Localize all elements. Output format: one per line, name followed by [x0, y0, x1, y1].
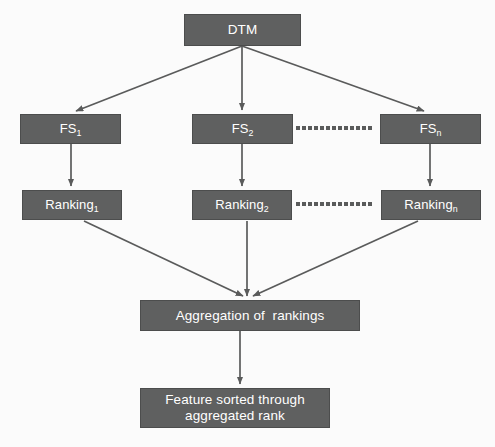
dot — [338, 202, 342, 206]
node-ranking2: Ranking2 — [192, 190, 292, 220]
node-output: Feature sorted throughaggregated rank — [140, 388, 330, 428]
flowchart-diagram: DTM FS1 FS2 FSn Ranking1 Ranking2 Rankin… — [0, 0, 495, 447]
node-aggregation: Aggregation of rankings — [140, 300, 360, 331]
dot — [338, 126, 342, 130]
edge-rankingn-to-aggregation — [253, 221, 418, 296]
dot — [296, 126, 300, 130]
dot — [308, 126, 312, 130]
node-fs2-label: FS2 — [232, 121, 254, 136]
node-output-label: Feature sorted throughaggregated rank — [165, 392, 305, 424]
dot — [350, 202, 354, 206]
node-aggregation-label: Aggregation of rankings — [176, 308, 325, 324]
node-fs2-base: FS — [232, 121, 249, 136]
dot — [302, 202, 306, 206]
node-fs1-base: FS — [60, 121, 77, 136]
node-fsn-base: FS — [420, 121, 437, 136]
dot — [356, 126, 360, 130]
node-rankingn-base: Ranking — [404, 197, 452, 212]
ellipsis-fs-row — [296, 126, 372, 130]
dot — [332, 202, 336, 206]
node-rankingn-subscript: n — [453, 204, 458, 214]
edge-dtm-to-fs1 — [76, 46, 242, 111]
dot — [302, 126, 306, 130]
node-fs2: FS2 — [192, 114, 293, 144]
node-fsn: FSn — [380, 114, 481, 144]
dot — [368, 202, 372, 206]
edge-ranking1-to-aggregation — [84, 221, 243, 296]
dot — [320, 126, 324, 130]
node-fs1-label: FS1 — [60, 121, 82, 136]
node-rankingn-label: Rankingn — [404, 197, 457, 212]
node-fsn-subscript: n — [436, 128, 441, 138]
node-output-line1: Feature sorted through — [165, 392, 305, 408]
dot — [332, 126, 336, 130]
dot — [326, 126, 330, 130]
dot — [320, 202, 324, 206]
diagram-edges-layer — [0, 0, 495, 447]
node-ranking2-subscript: 2 — [264, 204, 269, 214]
dot — [314, 202, 318, 206]
dot — [350, 126, 354, 130]
node-fs2-subscript: 2 — [248, 128, 253, 138]
node-ranking1-label: Ranking1 — [45, 197, 98, 212]
node-output-line2: aggregated rank — [165, 408, 305, 424]
node-fs1-subscript: 1 — [76, 128, 81, 138]
node-ranking1-base: Ranking — [45, 197, 93, 212]
dot — [344, 202, 348, 206]
dot — [326, 202, 330, 206]
dot — [314, 126, 318, 130]
node-rankingn: Rankingn — [381, 190, 481, 220]
dot — [362, 202, 366, 206]
node-ranking1-subscript: 1 — [94, 204, 99, 214]
dot — [296, 202, 300, 206]
dot — [356, 202, 360, 206]
dot — [308, 202, 312, 206]
dot — [368, 126, 372, 130]
node-fs1: FS1 — [20, 114, 121, 144]
node-ranking2-base: Ranking — [215, 197, 263, 212]
dot — [344, 126, 348, 130]
node-ranking1: Ranking1 — [22, 190, 122, 220]
node-dtm: DTM — [184, 14, 301, 46]
node-fsn-label: FSn — [420, 121, 442, 136]
dot — [362, 126, 366, 130]
node-ranking2-label: Ranking2 — [215, 197, 268, 212]
ellipsis-ranking-row — [296, 202, 372, 206]
node-dtm-label: DTM — [228, 22, 258, 38]
edge-dtm-to-fsn — [242, 46, 424, 111]
